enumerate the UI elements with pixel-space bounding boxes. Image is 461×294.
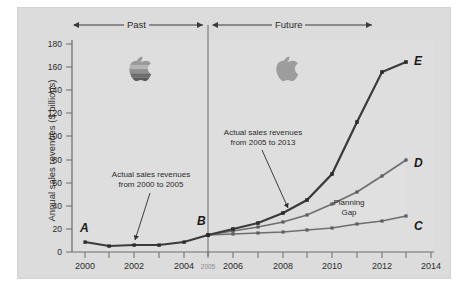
y-tick-120: 120: [36, 108, 62, 118]
y-tick-160: 160: [36, 62, 62, 72]
y-tick-0: 0: [36, 247, 62, 257]
apple-rainbow-logo: [124, 56, 156, 87]
past-note-leader: [135, 193, 150, 240]
y-tick-100: 100: [36, 131, 62, 141]
annotation-past-note-line1: Actual sales revenues: [91, 170, 211, 180]
annotation-past-note: Actual sales revenues from 2000 to 2005: [91, 170, 211, 190]
y-axis-label: Annual sales revenues ($ billions): [46, 56, 57, 246]
x-tick-2014: 2014: [411, 261, 451, 271]
point-label-c: C: [414, 219, 423, 233]
point-label-d: D: [414, 156, 423, 170]
y-tick-140: 140: [36, 85, 62, 95]
x-tick-2006: 2006: [213, 261, 253, 271]
x-ticks: [85, 252, 431, 258]
y-tick-40: 40: [36, 201, 62, 211]
future-note-leader: [262, 150, 288, 208]
planning-gap-line2: Gap: [320, 208, 378, 218]
chart-figure: Annual sales revenues ($ billions) 180 1…: [0, 0, 461, 294]
era-label-past: Past: [124, 19, 149, 30]
x-tick-2010: 2010: [312, 261, 352, 271]
point-label-b: B: [197, 214, 206, 228]
y-tick-60: 60: [36, 178, 62, 188]
y-tick-20: 20: [36, 224, 62, 234]
annotation-future-note-line2: from 2005 to 2013: [203, 138, 323, 148]
era-label-future: Future: [272, 19, 305, 30]
y-tick-80: 80: [36, 155, 62, 165]
y-ticks: [66, 44, 72, 252]
x-tick-2008: 2008: [263, 261, 303, 271]
x-tick-2012: 2012: [362, 261, 402, 271]
x-tick-2000: 2000: [65, 261, 105, 271]
point-label-e: E: [414, 54, 422, 68]
point-label-a: A: [80, 221, 89, 235]
annotation-past-note-line2: from 2000 to 2005: [91, 180, 211, 190]
annotation-future-note-line1: Actual sales revenues: [203, 128, 323, 138]
apple-solid-logo: [276, 57, 298, 82]
annotation-future-note: Actual sales revenues from 2005 to 2013: [203, 128, 323, 148]
planning-gap-line1: Planning: [320, 198, 378, 208]
y-tick-180: 180: [36, 39, 62, 49]
x-tick-2002: 2002: [114, 261, 154, 271]
annotation-planning-gap: Planning Gap: [320, 198, 378, 218]
series-actual-past: [83, 233, 209, 247]
